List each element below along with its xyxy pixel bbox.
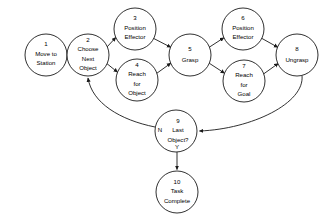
branch-label-no: N bbox=[158, 126, 162, 133]
node-9-label-line-0: Last bbox=[172, 126, 184, 133]
edge-2-to-3 bbox=[107, 38, 116, 48]
node-7[interactable]: 7 Reach for Goal bbox=[223, 60, 265, 102]
node-2-label-line-0: Choose bbox=[77, 45, 99, 52]
node-8-label-line-0: Ungrasp bbox=[285, 56, 309, 63]
node-7-label-line-0: Reach bbox=[235, 71, 253, 78]
node-3-label-line-1: Effector bbox=[125, 33, 146, 40]
flowchart-canvas: 1 Move to Station 2 Choose Next Object 3… bbox=[0, 0, 331, 220]
node-7-label-line-2: Goal bbox=[238, 90, 251, 97]
edge-3-to-5 bbox=[153, 38, 171, 47]
node-4-label-line-0: Reach bbox=[128, 70, 146, 77]
node-10-label-line-0: Task bbox=[171, 187, 184, 194]
node-10-label-line-1: Complete bbox=[164, 197, 191, 204]
node-6[interactable]: 6 Position Effector bbox=[222, 8, 264, 50]
node-8-circle[interactable] bbox=[276, 34, 318, 76]
node-5-label-line-0: Grasp bbox=[182, 56, 199, 63]
node-6-label-line-0: Position bbox=[232, 24, 254, 31]
edge-5-to-7 bbox=[209, 63, 224, 73]
node-10-id: 10 bbox=[174, 178, 181, 185]
edge-7-to-8 bbox=[264, 64, 279, 75]
branch-label-yes: Y bbox=[175, 143, 179, 150]
node-5-circle[interactable] bbox=[169, 34, 211, 76]
node-10[interactable]: 10 Task Complete bbox=[156, 171, 198, 213]
node-9-label-line-1: Object? bbox=[167, 136, 189, 143]
node-7-label-line-1: for bbox=[240, 81, 247, 88]
nodes-layer: 1 Move to Station 2 Choose Next Object 3… bbox=[25, 8, 318, 213]
edge-6-to-8 bbox=[262, 38, 278, 47]
node-3[interactable]: 3 Position Effector bbox=[114, 8, 156, 50]
edge-2-to-4 bbox=[107, 64, 118, 73]
node-4-label-line-1: for bbox=[133, 80, 140, 87]
edge-4-to-5 bbox=[157, 63, 171, 73]
edge-5-to-6 bbox=[209, 38, 224, 48]
node-1-label-line-1: Station bbox=[37, 59, 56, 66]
node-3-label-line-0: Position bbox=[124, 24, 146, 31]
node-2-label-line-1: Next bbox=[82, 55, 95, 62]
node-6-label-line-1: Effector bbox=[233, 33, 254, 40]
node-2-label-line-2: Object bbox=[79, 64, 97, 71]
node-1-label-line-0: Move to bbox=[35, 50, 57, 57]
node-8[interactable]: 8 Ungrasp bbox=[276, 34, 318, 76]
node-4[interactable]: 4 Reach for Object bbox=[116, 59, 158, 101]
flowchart-svg: 1 Move to Station 2 Choose Next Object 3… bbox=[0, 0, 331, 220]
node-4-label-line-2: Object bbox=[128, 89, 146, 96]
node-2[interactable]: 2 Choose Next Object bbox=[67, 34, 109, 76]
node-1[interactable]: 1 Move to Station bbox=[25, 34, 67, 76]
node-5[interactable]: 5 Grasp bbox=[169, 34, 211, 76]
